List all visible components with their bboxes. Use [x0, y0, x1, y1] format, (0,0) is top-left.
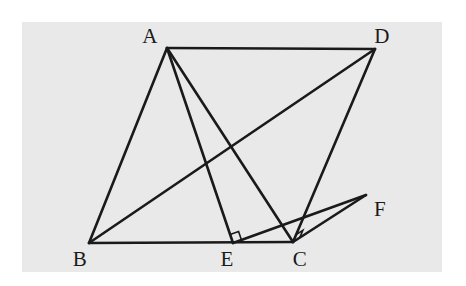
figure-root: ABCDEF — [0, 0, 466, 286]
vertex-label-c: C — [293, 249, 307, 270]
segment-bc — [89, 242, 293, 243]
segment-ef — [233, 195, 366, 243]
vertex-label-f: F — [374, 199, 386, 220]
segment-ae-altitude — [167, 48, 233, 243]
vertex-label-d: D — [374, 26, 389, 47]
vertex-label-b: B — [73, 249, 87, 270]
segment-ab — [89, 48, 167, 243]
vertex-label-e: E — [220, 249, 233, 270]
vertex-label-a: A — [142, 26, 157, 47]
segments-group — [89, 48, 375, 243]
geometry-diagram — [0, 0, 466, 286]
segment-ad — [167, 48, 375, 49]
segment-ac-diagonal — [167, 48, 293, 242]
